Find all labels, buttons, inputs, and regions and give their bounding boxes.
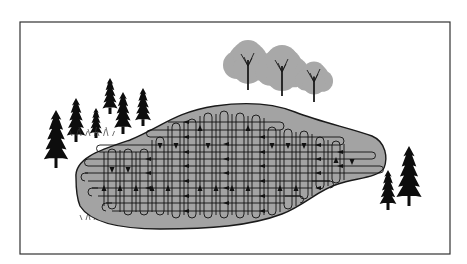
lake-search-diagram	[0, 0, 467, 264]
conifer-trunk	[387, 203, 390, 210]
conifer-trunk	[55, 158, 58, 168]
conifer-trunk	[109, 108, 112, 114]
conifer-trunk	[122, 126, 125, 134]
conifer-trunk	[408, 195, 411, 206]
conifer-trunk	[142, 119, 145, 126]
